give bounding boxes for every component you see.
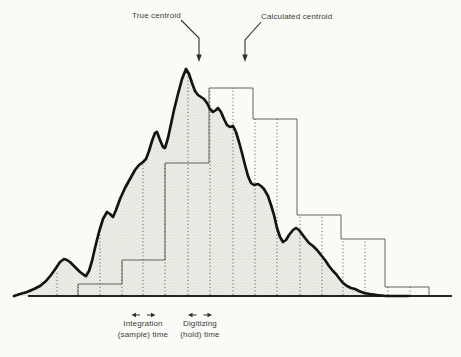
calculated-centroid-label: Calculated centroid — [261, 12, 332, 21]
integration-span-arrow-right-head — [151, 313, 156, 317]
true-centroid-arrow — [181, 20, 199, 55]
figure-page: True centroid Calculated centroid Integr… — [0, 0, 461, 357]
calculated-centroid-arrow — [245, 22, 261, 55]
true-centroid-arrow-head — [196, 55, 201, 63]
digitizing-time-label-line2: (hold) time — [180, 330, 219, 339]
figure-canvas — [0, 0, 461, 357]
integration-span-arrow-left-head — [132, 313, 137, 317]
curve-area-fill — [14, 69, 408, 296]
digitizing-span-arrow-right-head — [208, 313, 213, 317]
calculated-centroid-arrow-head — [242, 55, 247, 63]
true-centroid-label: True centroid — [132, 11, 181, 20]
digitizing-span-arrow-left-head — [188, 313, 193, 317]
timing-span-arrows — [132, 313, 213, 317]
integration-time-label-line1: Integration — [123, 319, 162, 328]
curve-shaded-area — [14, 69, 408, 296]
digitizing-time-label-line1: Digitizing — [183, 319, 217, 328]
integration-time-label-line2: (sample) time — [118, 330, 168, 339]
centroid-pointer-arrows — [181, 20, 261, 62]
